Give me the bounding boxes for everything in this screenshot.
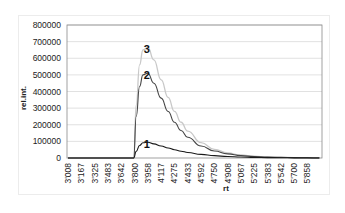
y-tick-label: 400000 bbox=[33, 87, 62, 97]
x-tick-label: 4'117 bbox=[156, 163, 166, 183]
x-tick-label: 3'642 bbox=[116, 163, 126, 184]
x-tick-label: 4'592 bbox=[196, 163, 206, 184]
x-tick-label: 4'433 bbox=[183, 163, 193, 184]
curve-label-1: 1 bbox=[144, 138, 150, 150]
x-tick-label: 5'858 bbox=[302, 163, 312, 184]
x-tick-label: 3'325 bbox=[90, 163, 100, 184]
y-tick-label: 0 bbox=[56, 153, 61, 163]
x-tick-label: 3'800 bbox=[130, 163, 140, 184]
x-tick-label: 5'542 bbox=[276, 163, 286, 184]
x-tick-label: 3'483 bbox=[103, 163, 113, 184]
curve-labels: 123 bbox=[144, 43, 150, 150]
x-tick-label: 4'750 bbox=[209, 163, 219, 184]
x-tick-label: 3'167 bbox=[76, 163, 86, 184]
y-tick-label: 700000 bbox=[33, 37, 62, 47]
y-tick-label: 300000 bbox=[33, 103, 62, 113]
x-axis-ticks: 3'0083'1673'3253'4833'6423'8003'9584'117… bbox=[63, 163, 312, 184]
x-tick-label: 3'008 bbox=[63, 163, 73, 184]
y-tick-label: 500000 bbox=[33, 70, 62, 80]
x-tick-label: 5'383 bbox=[263, 163, 273, 184]
x-axis-title: rt bbox=[223, 184, 229, 193]
y-tick-label: 600000 bbox=[33, 53, 62, 63]
x-tick-label: 5'700 bbox=[289, 163, 299, 184]
x-tick-label: 5'067 bbox=[236, 163, 246, 184]
series-2-line bbox=[68, 73, 319, 158]
y-tick-label: 800000 bbox=[33, 20, 62, 30]
x-tick-label: 5'225 bbox=[249, 163, 259, 184]
y-axis-title: rel.int. bbox=[19, 86, 28, 110]
y-tick-label: 200000 bbox=[33, 120, 62, 130]
y-tick-label: 100000 bbox=[33, 136, 62, 146]
series-1-line bbox=[68, 142, 319, 158]
y-axis-ticks: 0100000200000300000400000500000600000700… bbox=[33, 20, 62, 163]
x-tick-label: 4'908 bbox=[223, 163, 233, 184]
curve-label-3: 3 bbox=[144, 43, 150, 55]
curve-label-2: 2 bbox=[144, 69, 150, 81]
line-chart: 0100000200000300000400000500000600000700… bbox=[0, 0, 345, 213]
x-tick-label: 3'958 bbox=[143, 163, 153, 184]
x-tick-label: 4'275 bbox=[169, 163, 179, 184]
gridlines bbox=[67, 25, 322, 141]
